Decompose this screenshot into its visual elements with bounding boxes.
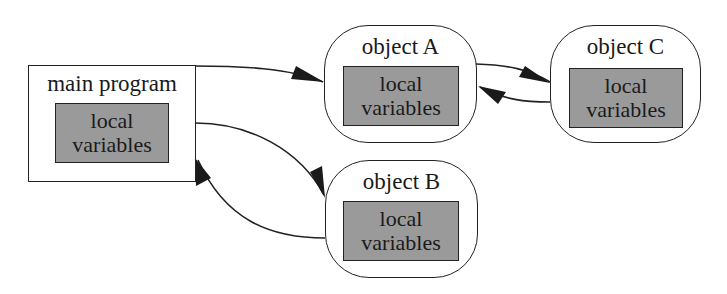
arrowhead-objC-to-objA: [478, 86, 506, 104]
node-main-program-title: main program: [29, 71, 195, 97]
object-b-local-variables: local variables: [343, 201, 459, 261]
edge-main-to-objB: [195, 123, 324, 195]
node-object-b-title: object B: [326, 169, 477, 195]
inner-line-2: variables: [570, 98, 682, 122]
node-object-c-title: object C: [551, 34, 700, 60]
arrowhead-objA-to-objC: [519, 66, 550, 83]
object-a-local-variables: local variables: [343, 66, 459, 126]
inner-line-2: variables: [344, 231, 458, 255]
node-main-program: main program local variables: [28, 65, 196, 182]
arrowhead-main-to-objB: [310, 166, 325, 198]
arrowhead-objB-to-main: [195, 158, 211, 186]
object-c-local-variables: local variables: [569, 68, 683, 128]
node-object-b: object B local variables: [325, 160, 478, 278]
node-object-c: object C local variables: [550, 25, 701, 143]
inner-line-2: variables: [344, 96, 458, 120]
arrowhead-main-to-objA: [291, 66, 324, 82]
inner-line-1: local: [56, 109, 168, 133]
inner-line-1: local: [570, 74, 682, 98]
inner-line-2: variables: [56, 133, 168, 157]
inner-line-1: local: [344, 207, 458, 231]
inner-line-1: local: [344, 72, 458, 96]
edge-objB-to-main: [198, 160, 325, 238]
node-object-a: object A local variables: [324, 25, 477, 143]
main-program-local-variables: local variables: [55, 103, 169, 163]
node-object-a-title: object A: [325, 34, 476, 60]
